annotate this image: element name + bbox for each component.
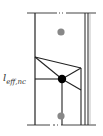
bolt-center-icon	[58, 75, 66, 83]
yield-line-diagram: leff,nc	[0, 0, 103, 136]
effective-length-label: leff,nc	[3, 72, 26, 86]
bolt-top-icon	[57, 28, 64, 35]
label-subscript: eff,nc	[6, 78, 26, 86]
diagram-drawing	[0, 0, 103, 136]
bolt-bottom-icon	[57, 112, 64, 119]
